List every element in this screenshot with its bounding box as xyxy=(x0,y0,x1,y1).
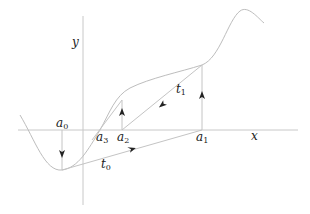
secant-line-t1 xyxy=(122,65,202,130)
function-curve xyxy=(20,9,264,170)
label-a3: a3 xyxy=(96,130,108,145)
y-axis-label: y xyxy=(71,35,79,49)
arrow-along-t1-icon xyxy=(157,100,167,110)
label-t1: t1 xyxy=(176,82,186,97)
label-a2: a2 xyxy=(117,130,129,145)
label-t0: t0 xyxy=(101,157,111,172)
label-a1: a1 xyxy=(196,130,208,145)
secant-method-diagram: y x a0 a1 a2 a3 t0 t1 xyxy=(0,0,310,214)
label-a0: a0 xyxy=(56,116,68,131)
x-axis-label: x xyxy=(251,129,258,143)
